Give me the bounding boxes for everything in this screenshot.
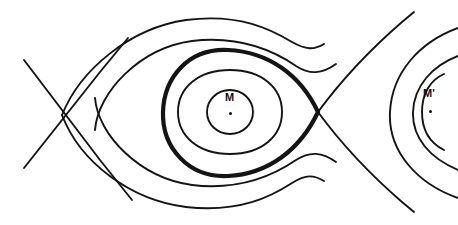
contour-diagram-figure: M M': [0, 0, 458, 225]
contour-separatrix-closed-thick: [163, 50, 318, 176]
contour-right-asymptote-upper: [318, 12, 414, 112]
contour-right-asymptote-lower: [318, 112, 414, 212]
contour-right-outer-arc: [390, 28, 458, 198]
contour-asymptote-lower-left: [24, 38, 128, 168]
contour-asymptote-upper-left: [24, 60, 132, 200]
secondary-mass-label: M': [423, 88, 435, 99]
secondary-mass-point: [429, 110, 432, 113]
primary-mass-point: [229, 112, 232, 115]
contour-right-inner-arc: [422, 74, 444, 150]
primary-mass-label: M: [225, 92, 234, 103]
contour-outer-contour-upper: [62, 18, 324, 115]
contour-right-middle-arc: [413, 56, 458, 170]
